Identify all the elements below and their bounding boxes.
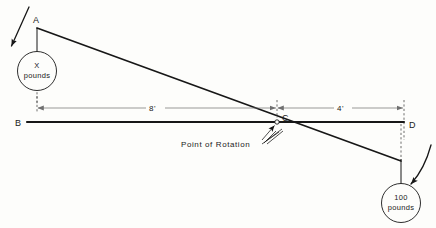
point-label-b: B: [15, 118, 21, 128]
left-load-circle: X pounds: [18, 52, 57, 91]
right-load-amount: 100: [394, 193, 407, 202]
left-load-unit: pounds: [24, 71, 50, 80]
right-load-circle: 100 pounds: [382, 184, 421, 223]
dimension-label-8ft: 8': [149, 104, 156, 113]
callout-leader-left: [262, 126, 275, 141]
left-force-arrow: [12, 7, 30, 46]
dimension-label-4ft: 4': [337, 104, 344, 113]
point-of-rotation-callout: Point of Rotation: [181, 126, 283, 150]
dimension-row: 8' 4': [37, 96, 404, 140]
dimension-8ft: 8': [38, 104, 276, 113]
point-of-rotation-label: Point of Rotation: [181, 140, 250, 149]
left-load-amount: X: [34, 61, 39, 70]
pivot-point-icon: [275, 120, 279, 124]
dimension-4ft: 4': [278, 104, 403, 113]
point-label-d: D: [409, 120, 416, 130]
point-label-c: C: [282, 113, 289, 123]
right-load-unit: pounds: [388, 203, 414, 212]
right-force-arrow: [411, 145, 431, 184]
lever-diagram: X pounds A 8' 4': [0, 0, 436, 228]
diagram-canvas: X pounds A 8' 4': [0, 0, 436, 228]
point-label-a: A: [33, 15, 39, 25]
